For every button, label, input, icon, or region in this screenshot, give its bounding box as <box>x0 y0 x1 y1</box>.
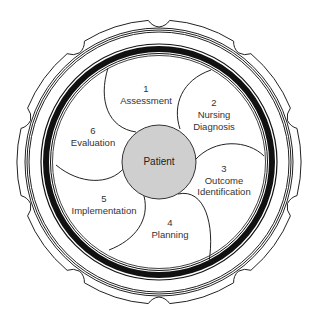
step-number: 6 <box>90 125 95 136</box>
step-number: 4 <box>167 217 172 228</box>
step-number: 1 <box>143 83 148 94</box>
divider-3-4 <box>178 193 211 262</box>
divider-5-6 <box>56 165 124 180</box>
step-label: Assessment <box>120 95 172 106</box>
step-label: Implementation <box>72 205 137 216</box>
step-number: 2 <box>211 97 216 108</box>
step-label-line1: Nursing <box>198 109 231 120</box>
step-label-line2: Diagnosis <box>193 121 235 132</box>
step-label-line2: Identification <box>197 186 250 197</box>
step-label-line1: Outcome <box>205 175 244 186</box>
divider-2-3 <box>195 144 264 160</box>
patient-label: Patient <box>143 156 174 167</box>
step-label: Planning <box>152 229 189 240</box>
step-label: Evaluation <box>71 137 115 148</box>
step-number: 5 <box>101 193 106 204</box>
step-number: 3 <box>221 163 226 174</box>
